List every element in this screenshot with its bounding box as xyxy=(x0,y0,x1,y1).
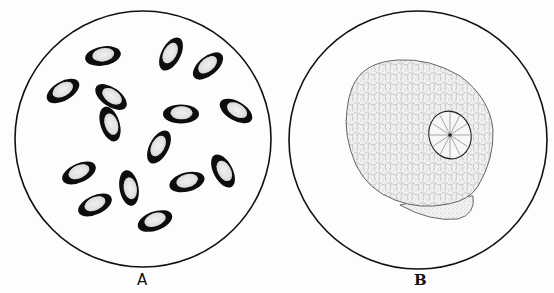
spore xyxy=(95,104,124,144)
spore xyxy=(206,151,240,192)
panel-a xyxy=(15,11,271,267)
spore xyxy=(167,168,207,196)
figure-illustration xyxy=(0,0,554,293)
spore xyxy=(154,34,188,75)
spore xyxy=(216,94,257,128)
panel-label-a: A xyxy=(137,271,147,289)
spore xyxy=(43,74,84,108)
panel-b xyxy=(289,11,547,269)
large-cell xyxy=(346,60,493,220)
spore xyxy=(163,105,199,124)
spore xyxy=(117,169,142,208)
spore-group xyxy=(43,34,257,236)
spore xyxy=(75,189,116,221)
spore xyxy=(142,127,176,168)
panel-label-b: B xyxy=(414,271,427,289)
nucleolus xyxy=(448,133,452,137)
spore xyxy=(84,44,123,69)
spore xyxy=(59,157,100,189)
spore xyxy=(188,47,228,85)
spore xyxy=(135,206,175,236)
